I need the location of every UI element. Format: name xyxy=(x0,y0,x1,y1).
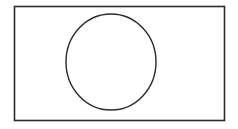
outer-rectangle xyxy=(15,7,225,121)
diagram-canvas xyxy=(0,0,238,129)
diagram-svg xyxy=(0,0,238,129)
